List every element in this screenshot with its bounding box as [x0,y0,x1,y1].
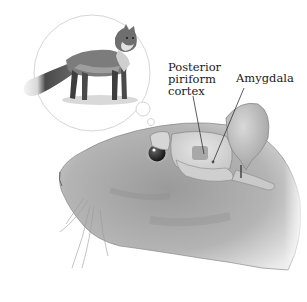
thought-bubble-connector-large [136,102,150,116]
posterior-piriform-cortex-region [192,146,208,160]
illustration [0,0,307,302]
label-amygdala: Amygdala [236,72,294,84]
thought-bubble [24,15,155,131]
thought-bubble-connector-small [148,119,155,126]
label-posterior-piriform-cortex: Posterior piriform cortex [168,61,221,97]
